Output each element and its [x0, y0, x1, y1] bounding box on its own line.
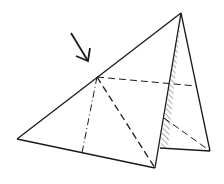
big-triangle-edge-hypotenuse [17, 13, 181, 139]
fold-arrow-icon [71, 33, 90, 61]
dash-dot-fold-line [82, 77, 97, 153]
right-flap-bottom [160, 148, 210, 151]
dashed-horizontal-fold [97, 77, 196, 86]
right-flap-edge [181, 13, 210, 151]
folded-triangle-diagram [0, 0, 224, 184]
dashed-diagonal [97, 77, 155, 168]
big-triangle-edge-bottom [17, 139, 155, 168]
dashed-lower-fold [164, 118, 210, 151]
